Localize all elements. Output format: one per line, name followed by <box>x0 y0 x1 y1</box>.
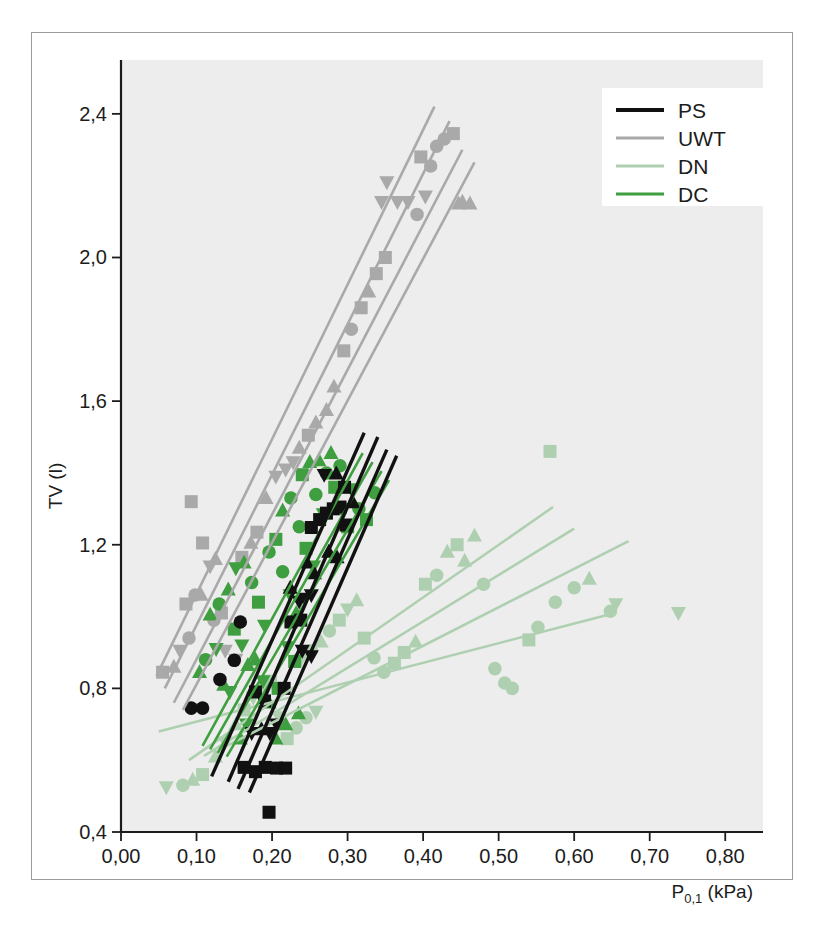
y-tick-label: 0,4 <box>79 821 107 843</box>
x-tick-label: 0,70 <box>630 845 669 867</box>
legend-label: DC <box>678 183 708 206</box>
data-point-circle <box>196 701 210 715</box>
data-point-circle <box>567 581 581 595</box>
data-point-circle <box>505 682 519 696</box>
x-tick-label: 0,60 <box>555 845 594 867</box>
y-tick-label: 0,8 <box>79 677 107 699</box>
data-point-square <box>196 768 209 781</box>
data-point-circle <box>276 565 290 579</box>
legend-label: PS <box>678 99 706 122</box>
data-point-circle <box>228 654 242 668</box>
y-tick-label: 1,2 <box>79 534 107 556</box>
data-point-square <box>451 538 464 551</box>
data-point-circle <box>549 595 563 609</box>
data-point-square <box>252 596 265 609</box>
data-point-square <box>185 495 198 508</box>
data-point-square <box>263 806 276 819</box>
scatter-plot-svg: 0,40,81,21,62,02,40,000,100,200,300,400,… <box>0 0 835 939</box>
data-point-square <box>196 536 209 549</box>
x-axis-title: P0,1 (kPa) <box>672 881 753 906</box>
data-point-square <box>279 762 292 775</box>
data-point-circle <box>309 488 323 502</box>
data-point-circle <box>213 673 227 687</box>
data-point-circle <box>292 520 306 534</box>
chart-root: 0,40,81,21,62,02,40,000,100,200,300,400,… <box>0 0 835 939</box>
x-tick-label: 0,00 <box>102 845 141 867</box>
y-axis-title: TV (l) <box>45 463 66 509</box>
legend-label: DN <box>678 155 708 178</box>
legend-label: UWT <box>678 127 726 150</box>
y-tick-label: 2,4 <box>79 103 107 125</box>
data-point-square <box>333 614 346 627</box>
data-point-square <box>544 445 557 458</box>
data-point-circle <box>488 662 502 676</box>
y-tick-label: 1,6 <box>79 390 107 412</box>
data-point-square <box>419 578 432 591</box>
x-tick-label: 0,40 <box>404 845 443 867</box>
data-point-circle <box>430 569 444 583</box>
x-tick-label: 0,80 <box>706 845 745 867</box>
x-tick-label: 0,50 <box>479 845 518 867</box>
data-point-circle <box>410 208 424 222</box>
x-tick-label: 0,20 <box>253 845 292 867</box>
legend[interactable]: PSUWTDNDC <box>602 88 782 206</box>
data-point-square <box>414 150 427 163</box>
data-point-square <box>337 344 350 357</box>
x-tick-label: 0,30 <box>328 845 367 867</box>
x-tick-label: 0,10 <box>177 845 216 867</box>
data-point-circle <box>234 615 248 629</box>
y-tick-label: 2,0 <box>79 246 107 268</box>
data-point-square <box>447 127 460 140</box>
